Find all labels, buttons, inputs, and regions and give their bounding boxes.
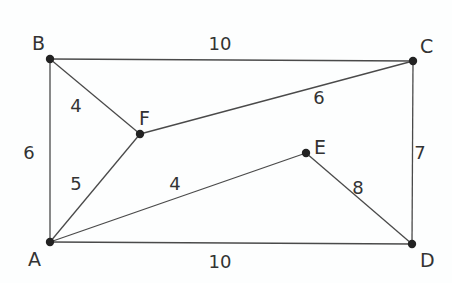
edge-e-d (306, 153, 412, 244)
node-b (46, 55, 54, 63)
edge-weight-f-c: 6 (313, 87, 324, 108)
node-label-f: F (139, 107, 150, 129)
edge-f-c (140, 61, 413, 134)
graph-diagram: 10466754810ABCDEF (0, 0, 452, 283)
node-a (46, 238, 54, 246)
node-label-b: B (32, 32, 45, 54)
edge-weight-c-d: 7 (414, 142, 425, 163)
edge-c-d (412, 61, 413, 244)
edge-a-d (50, 242, 412, 244)
edge-weight-b-f: 4 (70, 95, 81, 116)
edge-b-f (50, 59, 140, 134)
node-label-e: E (314, 136, 326, 158)
node-label-c: C (420, 35, 433, 57)
edge-weight-f-a: 5 (70, 173, 81, 194)
graph-canvas: 10466754810ABCDEF (0, 0, 452, 283)
edge-b-c (50, 59, 413, 61)
edge-weight-b-a: 6 (23, 142, 34, 163)
node-label-a: A (28, 248, 41, 270)
edge-weight-a-d: 10 (209, 251, 232, 272)
edge-weight-e-d: 8 (352, 177, 363, 198)
edge-weight-a-e: 4 (169, 173, 180, 194)
node-label-d: D (420, 249, 435, 271)
node-f (136, 130, 144, 138)
edge-a-e (50, 153, 306, 242)
node-e (302, 149, 310, 157)
node-d (408, 240, 416, 248)
edge-weight-b-c: 10 (209, 33, 232, 54)
node-c (409, 57, 417, 65)
